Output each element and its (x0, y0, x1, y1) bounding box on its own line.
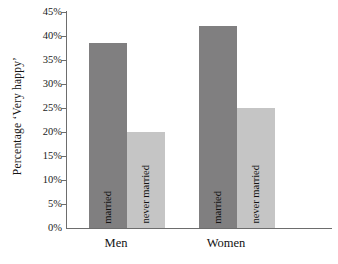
y-tick-label-20: 20% (43, 127, 62, 137)
y-tick-label-5: 5% (48, 199, 62, 209)
y-axis-title: Percentage ‘Very happy’ (6, 0, 28, 232)
y-tick-label-25: 25% (43, 103, 62, 113)
y-axis-title-text: Percentage ‘Very happy’ (11, 57, 23, 175)
bar-label-men-never-married: never married (141, 165, 152, 224)
bar-women-never-married[interactable]: never married (237, 108, 275, 228)
plot-area: married never married married never marr… (67, 12, 332, 228)
y-tick-label-35: 35% (43, 55, 62, 65)
x-category-label-men: Men (67, 236, 165, 251)
y-tick-label-0: 0% (48, 223, 62, 233)
bar-label-wrap: never married (237, 108, 275, 224)
y-axis-tick-labels: 45% 40% 35% 30% 25% 20% 15% 10% 5% 0% (28, 0, 62, 264)
x-axis-line (66, 228, 332, 229)
y-tick-label-10: 10% (43, 175, 62, 185)
bar-label-women-married: married (213, 191, 224, 224)
x-category-label-women: Women (177, 236, 275, 251)
bar-label-wrap: never married (127, 132, 165, 224)
y-tick-label-15: 15% (43, 151, 62, 161)
bar-men-married[interactable]: married (89, 43, 127, 228)
y-tick-label-30: 30% (43, 79, 62, 89)
y-tick-label-45: 45% (43, 7, 62, 17)
bar-label-wrap: married (89, 104, 127, 224)
bar-label-wrap: married (199, 104, 237, 224)
bar-women-married[interactable]: married (199, 26, 237, 228)
y-tick-label-40: 40% (43, 31, 62, 41)
bar-label-men-married: married (103, 191, 114, 224)
bar-chart: Percentage ‘Very happy’ 45% 40% 35% 30% … (0, 0, 338, 264)
bar-men-never-married[interactable]: never married (127, 132, 165, 228)
bar-label-women-never-married: never married (251, 165, 262, 224)
